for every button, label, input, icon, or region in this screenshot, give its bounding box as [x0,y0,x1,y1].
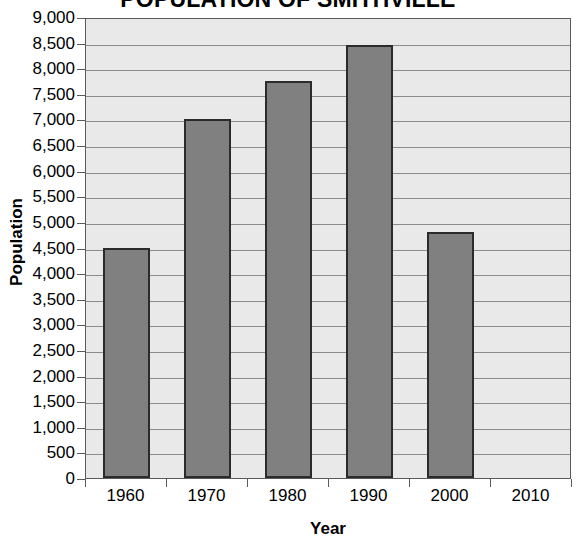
plot-area [85,18,571,479]
x-tick-mark [166,479,167,487]
x-tick-mark [571,479,572,487]
y-tick-label: 9,000 [0,9,75,26]
gridline [86,403,570,404]
y-tick-mark [77,274,85,275]
x-tick-mark [85,479,86,487]
y-tick-label: 5,500 [0,188,75,205]
y-tick-mark [77,428,85,429]
gridline [86,173,570,174]
gridline [86,70,570,71]
gridline [86,250,570,251]
gridline [86,429,570,430]
y-tick-label: 1,000 [0,419,75,436]
y-tick-label: 7,000 [0,111,75,128]
gridline [86,45,570,46]
x-axis-title: Year [85,519,571,539]
x-tick-label: 1980 [247,486,328,506]
x-tick-label: 1990 [328,486,409,506]
y-tick-label: 0 [0,470,75,487]
y-tick-label: 1,500 [0,393,75,410]
gridline [86,378,570,379]
gridline [86,454,570,455]
x-tick-mark [409,479,410,487]
gridline [86,96,570,97]
gridline [86,326,570,327]
y-tick-mark [77,377,85,378]
y-tick-label: 6,000 [0,163,75,180]
y-tick-label: 4,000 [0,265,75,282]
gridline [86,121,570,122]
y-tick-mark [77,44,85,45]
x-tick-label: 1970 [166,486,247,506]
bar [265,81,312,478]
gridline [86,147,570,148]
y-tick-mark [77,300,85,301]
x-tick-mark [490,479,491,487]
y-tick-mark [77,479,85,480]
y-tick-mark [77,197,85,198]
y-tick-mark [77,402,85,403]
y-tick-label: 7,500 [0,86,75,103]
x-tick-mark [328,479,329,487]
gridline [86,275,570,276]
y-tick-mark [77,453,85,454]
y-tick-mark [77,325,85,326]
gridline [86,198,570,199]
bar [184,119,231,478]
y-tick-label: 3,500 [0,291,75,308]
x-tick-mark [247,479,248,487]
y-tick-mark [77,146,85,147]
x-tick-label: 1960 [85,486,166,506]
y-tick-label: 8,500 [0,35,75,52]
y-tick-label: 5,000 [0,214,75,231]
gridline [86,301,570,302]
y-tick-mark [77,18,85,19]
bar-chart: POPULATION OF SMITHVILLE Population 9,00… [0,0,576,545]
y-tick-label: 3,000 [0,316,75,333]
y-tick-label: 2,000 [0,368,75,385]
y-tick-mark [77,249,85,250]
y-tick-label: 6,500 [0,137,75,154]
y-tick-mark [77,120,85,121]
chart-title: POPULATION OF SMITHVILLE [0,0,576,12]
y-tick-mark [77,172,85,173]
x-tick-label: 2010 [490,486,571,506]
y-tick-mark [77,69,85,70]
y-tick-label: 2,500 [0,342,75,359]
bar [346,45,393,478]
x-tick-label: 2000 [409,486,490,506]
y-tick-label: 500 [0,444,75,461]
gridline [86,224,570,225]
y-tick-label: 4,500 [0,240,75,257]
y-tick-label: 8,000 [0,60,75,77]
y-tick-mark [77,351,85,352]
gridline [86,352,570,353]
y-tick-mark [77,95,85,96]
bar [103,248,150,479]
y-tick-mark [77,223,85,224]
bar [427,232,474,478]
